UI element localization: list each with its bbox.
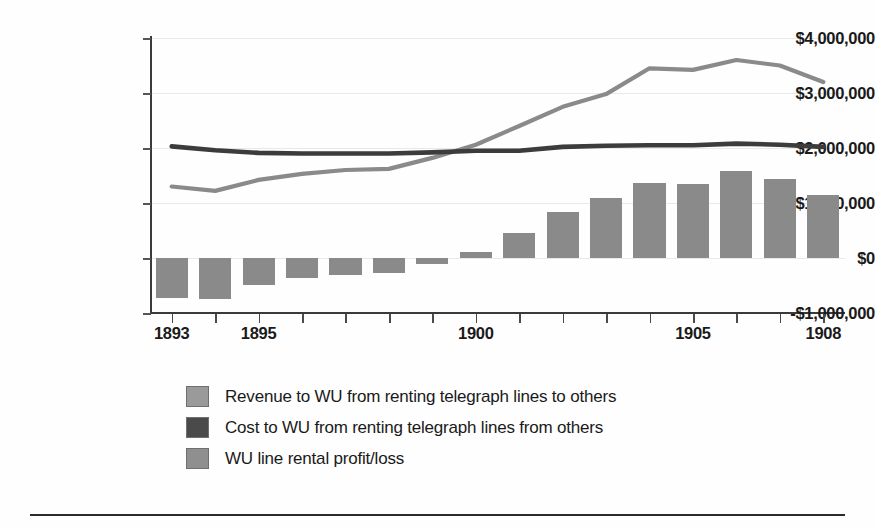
x-axis-tick-mark [823,314,825,323]
bar [329,258,361,275]
x-axis-tick-mark [606,314,608,323]
bar [286,258,318,278]
bar [677,184,709,258]
x-axis-tick-mark [302,314,304,323]
chart-figure: $4,000,000$3,000,000$2,000,000$1,000,000… [0,0,875,529]
bar [547,212,579,258]
bar [373,258,405,273]
plot-area: $4,000,000$3,000,000$2,000,000$1,000,000… [0,0,875,360]
x-axis-line [150,312,845,314]
bar [720,171,752,258]
y-axis-tick-mark [143,148,151,150]
y-axis-tick-mark [143,258,151,260]
gridline [150,148,845,149]
bar [199,258,231,299]
legend-label: Cost to WU from renting telegraph lines … [225,418,603,438]
x-axis-tick-mark [650,314,652,323]
legend-item: Revenue to WU from renting telegraph lin… [186,381,826,412]
legend-item: WU line rental profit/loss [186,443,826,474]
legend-label: WU line rental profit/loss [225,449,404,469]
bar [243,258,275,285]
bar [460,252,492,258]
legend-swatch-icon [186,448,209,469]
bar [416,258,448,264]
x-axis-tick-mark [389,314,391,323]
x-axis-tick-mark [259,314,261,323]
bar [807,195,839,258]
y-axis-tick-mark [143,313,151,315]
legend-label: Revenue to WU from renting telegraph lin… [225,387,616,407]
y-axis-line [150,36,152,313]
y-axis-tick-mark [143,93,151,95]
gridline [150,93,845,94]
x-axis-tick-mark [736,314,738,323]
x-axis-tick-label: 1893 [154,324,190,343]
legend-swatch-icon [186,386,209,407]
x-axis-tick-label: 1900 [458,324,494,343]
y-axis-tick-mark [143,203,151,205]
bar [503,233,535,258]
x-axis-tick-mark [563,314,565,323]
x-axis-tick-mark [432,314,434,323]
x-axis-tick-mark [780,314,782,323]
y-axis-tick-mark [143,38,151,40]
x-axis-tick-mark [693,314,695,323]
bar [156,258,188,298]
x-axis-tick-mark [519,314,521,323]
chart-legend: Revenue to WU from renting telegraph lin… [186,381,826,474]
y-axis-tick-label: $3,000,000 [753,84,875,103]
legend-swatch-icon [186,417,209,438]
bar [764,179,796,258]
gridline [150,38,845,39]
x-axis-tick-mark [172,314,174,323]
y-axis-tick-label: $2,000,000 [753,139,875,158]
bar [633,183,665,258]
x-axis-tick-label: 1895 [241,324,277,343]
legend-item: Cost to WU from renting telegraph lines … [186,412,826,443]
y-axis-tick-label: -$1,000,000 [753,304,875,323]
x-axis-tick-mark [345,314,347,323]
x-axis-tick-label: 1908 [806,324,842,343]
x-axis-tick-label: 1905 [675,324,711,343]
x-axis-tick-mark [215,314,217,323]
x-axis-tick-mark [476,314,478,323]
bottom-divider-rule [30,514,845,516]
bar [590,198,622,258]
y-axis-tick-label: $4,000,000 [753,29,875,48]
